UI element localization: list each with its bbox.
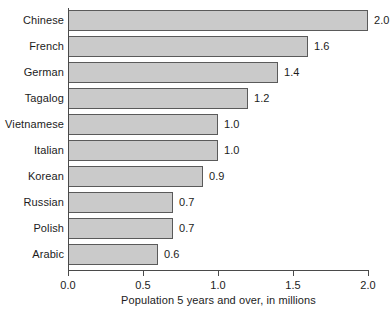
bar [68,140,218,161]
bar [68,10,368,31]
bar-value-label: 1.0 [224,144,240,156]
x-axis-title: Population 5 years and over, in millions [68,294,369,306]
bar [68,244,158,265]
bar-value-label: 0.7 [179,222,195,234]
x-axis-tick-label: 0.5 [135,279,151,291]
bar [68,218,173,239]
bar-value-label: 1.4 [284,66,300,78]
x-axis-tick [368,271,369,276]
category-label: Chinese [23,14,64,26]
bar [68,36,308,57]
x-axis-tick [68,271,69,276]
bar-value-label: 1.0 [224,118,240,130]
x-axis-tick-label: 1.5 [285,279,301,291]
bar [68,62,278,83]
category-label: Italian [34,144,64,156]
x-axis-tick-label: 2.0 [360,279,376,291]
x-axis-tick-label: 0.0 [60,279,76,291]
x-axis-tick [143,271,144,276]
bar-value-label: 1.2 [254,92,270,104]
y-axis-line [68,8,69,271]
bar-value-label: 0.9 [209,170,225,182]
bar [68,166,203,187]
bar-value-label: 2.0 [374,14,390,26]
category-label: Arabic [32,248,64,260]
bar-value-label: 0.6 [164,248,180,260]
category-label: Korean [28,170,64,182]
category-label: Polish [33,222,64,234]
category-label: Vietnamese [5,118,64,130]
bar-chart: Chinese French German Tagalog Vietnamese… [0,0,392,310]
category-label: Russian [24,196,64,208]
x-axis-tick-label: 1.0 [210,279,226,291]
bar-value-label: 0.7 [179,196,195,208]
bar-value-label: 1.6 [314,40,330,52]
x-axis-tick [293,271,294,276]
category-label: German [24,66,64,78]
category-label: Tagalog [25,92,64,104]
bar [68,88,248,109]
category-label: French [29,40,64,52]
bar [68,192,173,213]
bar [68,114,218,135]
x-axis-tick [218,271,219,276]
